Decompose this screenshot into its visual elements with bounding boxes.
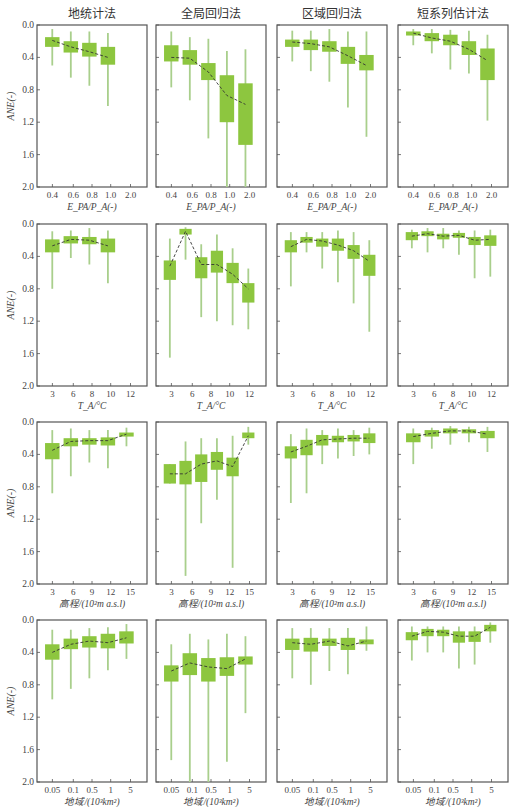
svg-text:6: 6: [71, 389, 76, 399]
svg-text:1.2: 1.2: [22, 117, 34, 127]
svg-text:0.1: 0.1: [68, 785, 79, 795]
svg-text:15: 15: [245, 587, 255, 597]
svg-text:1.2: 1.2: [22, 316, 34, 326]
svg-text:0.4: 0.4: [22, 449, 34, 459]
svg-text:5: 5: [489, 785, 494, 795]
svg-text:0.4: 0.4: [22, 647, 34, 657]
svg-text:高程/(10²m a.s.l): 高程/(10²m a.s.l): [178, 598, 244, 610]
svg-text:T_A/°C: T_A/°C: [78, 401, 107, 411]
svg-text:9: 9: [451, 587, 456, 597]
box-plot-panel: 0.40.60.81.02.0E_PA/P_A(-): [156, 25, 266, 213]
svg-text:0.4: 0.4: [287, 190, 299, 200]
svg-text:1.6: 1.6: [22, 150, 34, 160]
svg-text:8: 8: [330, 389, 335, 399]
svg-text:12: 12: [225, 587, 234, 597]
box-plot-panel: 0.050.10.515地域/(10³km²)0.00.40.81.21.62.…: [5, 615, 147, 807]
svg-text:E_PA/P_A(-): E_PA/P_A(-): [185, 202, 235, 213]
svg-text:3: 3: [411, 389, 416, 399]
svg-text:1.2: 1.2: [22, 514, 34, 524]
svg-text:0.05: 0.05: [164, 785, 180, 795]
svg-text:2.0: 2.0: [22, 579, 34, 589]
svg-text:3: 3: [411, 587, 416, 597]
box-plot-panel: 3681012T_A/°C: [277, 224, 387, 411]
svg-text:E_PA/P_A(-): E_PA/P_A(-): [66, 202, 116, 213]
svg-text:10: 10: [346, 389, 356, 399]
box-plot-panel: 0.050.10.515地域/(10³km²): [398, 620, 508, 807]
svg-text:E_PA/P_A(-): E_PA/P_A(-): [427, 202, 477, 213]
svg-text:0.4: 0.4: [47, 190, 59, 200]
svg-text:1.0: 1.0: [224, 190, 236, 200]
svg-text:高程/(10²m a.s.l): 高程/(10²m a.s.l): [420, 598, 486, 610]
svg-text:E_PA/P_A(-): E_PA/P_A(-): [306, 202, 356, 213]
svg-text:5: 5: [247, 785, 252, 795]
svg-text:1.0: 1.0: [466, 190, 478, 200]
svg-text:0.6: 0.6: [68, 190, 80, 200]
svg-text:3: 3: [50, 389, 55, 399]
svg-text:0.6: 0.6: [308, 190, 320, 200]
svg-text:12: 12: [346, 587, 355, 597]
svg-text:6: 6: [311, 587, 316, 597]
svg-text:0.4: 0.4: [22, 251, 34, 261]
svg-text:0.0: 0.0: [22, 615, 34, 625]
svg-text:6: 6: [432, 587, 437, 597]
svg-text:2.0: 2.0: [22, 381, 34, 391]
svg-text:3: 3: [169, 587, 174, 597]
svg-text:0.0: 0.0: [22, 219, 34, 229]
svg-text:0.1: 0.1: [308, 785, 319, 795]
svg-text:0.5: 0.5: [86, 785, 98, 795]
svg-text:1.0: 1.0: [105, 190, 117, 200]
svg-text:T_A/°C: T_A/°C: [439, 401, 468, 411]
svg-text:0.8: 0.8: [447, 190, 459, 200]
svg-text:12: 12: [106, 587, 115, 597]
svg-text:12: 12: [487, 389, 496, 399]
svg-text:15: 15: [126, 587, 136, 597]
box-plot-panel: 0.050.10.515地域/(10³km²): [156, 620, 266, 807]
svg-text:0.4: 0.4: [166, 190, 178, 200]
svg-text:6: 6: [190, 587, 195, 597]
svg-text:9: 9: [90, 587, 95, 597]
svg-text:2.0: 2.0: [22, 777, 34, 787]
svg-text:0.8: 0.8: [326, 190, 338, 200]
svg-text:9: 9: [330, 587, 335, 597]
box-plot-panel: 0.40.60.81.02.0E_PA/P_A(-): [277, 25, 387, 213]
box-plot-panel: 3681012T_A/°C: [398, 224, 508, 411]
box-plot-panel: 3681012T_A/°C: [156, 224, 266, 411]
box-plot-panel: 0.050.10.515地域/(10³km²): [277, 620, 387, 807]
svg-text:6: 6: [71, 587, 76, 597]
svg-text:15: 15: [487, 587, 497, 597]
svg-text:5: 5: [368, 785, 373, 795]
svg-text:5: 5: [128, 785, 133, 795]
svg-text:0.8: 0.8: [205, 190, 217, 200]
svg-text:0.6: 0.6: [429, 190, 441, 200]
svg-text:15: 15: [366, 587, 376, 597]
svg-text:ANE(-): ANE(-): [5, 290, 17, 321]
box-plot-grid-figure: 地统计法 全局回归法 区域回归法 短系列估计法 0.40.60.81.02.0E…: [0, 0, 520, 807]
svg-text:1.6: 1.6: [22, 547, 34, 557]
svg-text:0.0: 0.0: [22, 417, 34, 427]
svg-text:0.8: 0.8: [22, 680, 34, 690]
svg-text:6: 6: [432, 389, 437, 399]
svg-text:12: 12: [126, 389, 135, 399]
box-plot-panel: 3691215高程/(10²m a.s.l): [398, 422, 508, 610]
svg-text:0.1: 0.1: [429, 785, 440, 795]
svg-text:2.0: 2.0: [22, 182, 34, 192]
svg-text:地域/(10³km²): 地域/(10³km²): [64, 797, 119, 807]
box-plot-panel: 3691215高程/(10²m a.s.l)0.00.40.81.21.62.0…: [5, 417, 147, 610]
svg-text:3: 3: [290, 389, 295, 399]
svg-text:0.8: 0.8: [86, 190, 98, 200]
svg-text:10: 10: [225, 389, 235, 399]
svg-text:高程/(10²m a.s.l): 高程/(10²m a.s.l): [59, 598, 125, 610]
svg-text:2.0: 2.0: [486, 190, 498, 200]
svg-text:高程/(10²m a.s.l): 高程/(10²m a.s.l): [299, 598, 365, 610]
svg-text:6: 6: [311, 389, 316, 399]
svg-text:1.0: 1.0: [345, 190, 357, 200]
svg-text:10: 10: [467, 389, 477, 399]
svg-text:3: 3: [169, 389, 174, 399]
svg-text:1.6: 1.6: [22, 349, 34, 359]
svg-text:T_A/°C: T_A/°C: [318, 401, 347, 411]
svg-text:0.1: 0.1: [187, 785, 198, 795]
svg-text:1.2: 1.2: [22, 712, 34, 722]
svg-text:地域/(10³km²): 地域/(10³km²): [304, 797, 359, 807]
svg-text:8: 8: [451, 389, 456, 399]
svg-text:ANE(-): ANE(-): [5, 686, 17, 717]
